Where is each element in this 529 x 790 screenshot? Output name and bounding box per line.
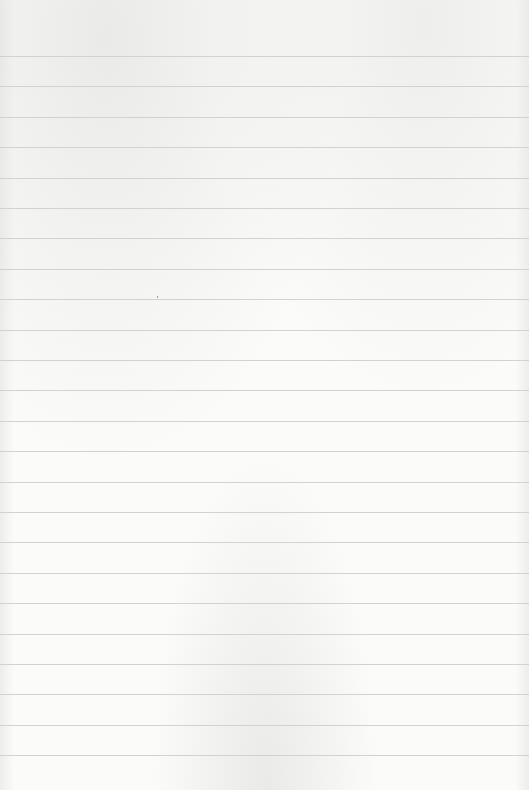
ruled-line bbox=[0, 664, 529, 665]
ruled-line bbox=[0, 299, 529, 300]
paper-speck bbox=[157, 296, 158, 298]
ruled-line bbox=[0, 421, 529, 422]
ruled-line bbox=[0, 755, 529, 756]
ruled-line bbox=[0, 147, 529, 148]
ruled-line bbox=[0, 573, 529, 574]
ruled-line bbox=[0, 330, 529, 331]
ruled-line bbox=[0, 86, 529, 87]
ruled-line bbox=[0, 542, 529, 543]
ruled-line bbox=[0, 208, 529, 209]
ruled-line bbox=[0, 238, 529, 239]
ruled-line bbox=[0, 117, 529, 118]
ruled-line bbox=[0, 694, 529, 695]
ruled-line bbox=[0, 390, 529, 391]
ruled-line bbox=[0, 482, 529, 483]
ruled-line bbox=[0, 634, 529, 635]
ruled-line bbox=[0, 56, 529, 57]
ruled-line bbox=[0, 269, 529, 270]
lined-paper-sheet bbox=[0, 0, 529, 790]
ruled-line bbox=[0, 603, 529, 604]
ruled-line bbox=[0, 178, 529, 179]
ruled-line bbox=[0, 725, 529, 726]
ruled-line bbox=[0, 512, 529, 513]
ruled-line bbox=[0, 360, 529, 361]
ruled-line bbox=[0, 451, 529, 452]
